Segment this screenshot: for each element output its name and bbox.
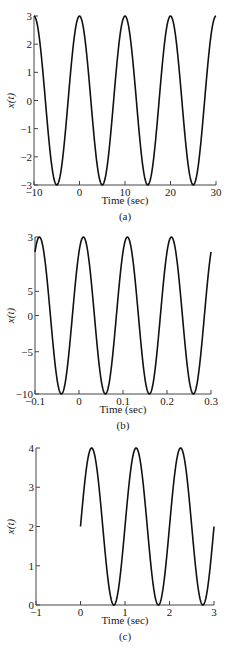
y-axis-label: x(t) xyxy=(4,519,17,536)
y-tick-label: −5 xyxy=(21,346,33,358)
y-tick-label: 2 xyxy=(29,521,35,533)
signal-curve xyxy=(35,237,211,394)
panel-label: (a) xyxy=(119,210,132,223)
y-tick-label: 0 xyxy=(28,310,34,322)
x-tick-label: 0 xyxy=(76,395,82,407)
x-tick-label: 30 xyxy=(211,186,223,198)
x-tick-label: 2 xyxy=(167,606,173,618)
x-tick-label: 0.2 xyxy=(160,395,174,407)
y-tick-label: 5 xyxy=(28,285,34,297)
y-tick-label: 1 xyxy=(27,66,33,78)
x-axis-label: Time (sec) xyxy=(102,194,149,207)
y-tick-label: 3 xyxy=(28,231,34,243)
x-tick-label: −1 xyxy=(30,606,42,618)
x-tick-label: 0 xyxy=(77,186,83,198)
panel-label: (b) xyxy=(117,419,130,432)
chart-b: 350−5−10−0.100.10.20.3Time (sec)(b)x(t) xyxy=(4,231,218,432)
chart-a: 3210−1−2−3−100102030Time (sec)(a)x(t) xyxy=(4,10,222,223)
y-axis-label: x(t) xyxy=(4,93,17,110)
signal-curve xyxy=(81,448,215,605)
x-axis-label: Time (sec) xyxy=(100,403,147,416)
x-tick-label: 20 xyxy=(165,186,177,198)
x-tick-label: 3 xyxy=(211,606,217,618)
figure: 3210−1−2−3−100102030Time (sec)(a)x(t) 35… xyxy=(0,0,228,649)
y-tick-label: −1 xyxy=(20,123,32,135)
x-axis-label: Time (sec) xyxy=(102,614,149,627)
chart-c: 43210−10123Time (sec)(c)x(t) xyxy=(4,442,217,643)
x-tick-label: 0.3 xyxy=(204,395,218,407)
panel-label: (c) xyxy=(119,630,132,643)
y-tick-label: −2 xyxy=(20,151,32,163)
y-tick-label: 1 xyxy=(29,560,35,572)
y-tick-label: 3 xyxy=(29,481,35,493)
signal-curve xyxy=(34,16,216,185)
y-tick-label: 2 xyxy=(27,38,33,50)
y-tick-label: 3 xyxy=(27,10,33,22)
x-tick-label: 0 xyxy=(78,606,84,618)
x-tick-label: −0.1 xyxy=(25,395,45,407)
y-axis-label: x(t) xyxy=(4,308,17,325)
y-tick-label: 4 xyxy=(29,442,35,454)
x-tick-label: −10 xyxy=(25,186,43,198)
y-tick-label: 0 xyxy=(27,95,33,107)
